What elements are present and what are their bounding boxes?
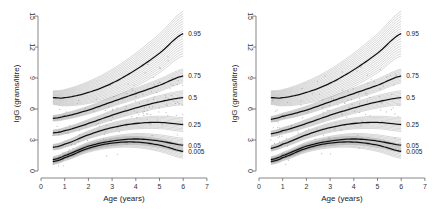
x-tick-label: 2 (86, 183, 90, 190)
x-axis-title: Age (years) (321, 194, 363, 203)
quantile-label: 0.5 (406, 94, 415, 101)
figure: 0369121501234567Age (years)IgG (grams/li… (0, 0, 443, 213)
quantile-label: 0.005 (188, 148, 205, 155)
y-tick-label: 3 (29, 138, 36, 142)
quantile-labels: 0.950.750.50.250.050.005 (188, 30, 205, 155)
y-axis-title: IgG (grams/litre) (12, 64, 21, 122)
x-tick-label: 1 (281, 183, 285, 190)
y-tick-label: 0 (247, 169, 254, 173)
quantile-label: 0.95 (188, 30, 201, 37)
x-tick-label: 7 (205, 183, 209, 190)
y-tick-label: 9 (29, 76, 36, 80)
y-tick-label: 6 (29, 107, 36, 111)
y-tick-label: 15 (247, 12, 254, 20)
x-tick-label: 6 (181, 183, 185, 190)
x-tick-label: 6 (399, 183, 403, 190)
quantile-label: 0.75 (406, 72, 419, 79)
quantile-curves-figure: 0369121501234567Age (years)IgG (grams/li… (0, 0, 443, 213)
x-tick-label: 4 (352, 183, 356, 190)
y-tick-label: 12 (29, 43, 36, 51)
x-tick-label: 0 (257, 183, 261, 190)
y-axis: 03691215 (29, 12, 38, 173)
y-tick-label: 0 (29, 169, 36, 173)
quantile-label: 0.005 (406, 148, 423, 155)
x-axis-title: Age (years) (103, 194, 145, 203)
x-tick-label: 1 (63, 183, 67, 190)
x-tick-label: 0 (39, 183, 43, 190)
quantile-curves (271, 11, 401, 164)
y-tick-label: 9 (247, 76, 254, 80)
quantile-labels: 0.950.750.50.250.050.005 (406, 30, 423, 155)
quantile-label: 0.25 (406, 121, 419, 128)
y-tick-label: 15 (29, 12, 36, 20)
left-panel: 0369121501234567Age (years)IgG (grams/li… (12, 11, 209, 203)
x-tick-label: 3 (110, 183, 114, 190)
quantile-label: 0.25 (188, 121, 201, 128)
quantile-label: 0.75 (188, 72, 201, 79)
x-tick-label: 2 (304, 183, 308, 190)
y-tick-label: 12 (247, 43, 254, 51)
right-panel: 0369121501234567Age (years)IgG (grams/li… (230, 11, 427, 203)
quantile-label: 0.95 (406, 30, 419, 37)
quantile-curves (53, 11, 183, 164)
y-tick-label: 6 (247, 107, 254, 111)
x-axis: 01234567 (39, 178, 209, 190)
y-tick-label: 3 (247, 138, 254, 142)
x-tick-label: 7 (423, 183, 427, 190)
x-tick-label: 5 (158, 183, 162, 190)
y-axis-title: IgG (grams/litre) (230, 64, 239, 122)
y-axis: 03691215 (247, 12, 256, 173)
x-axis: 01234567 (257, 178, 427, 190)
x-tick-label: 4 (134, 183, 138, 190)
quantile-label: 0.5 (188, 94, 197, 101)
x-tick-label: 5 (376, 183, 380, 190)
x-tick-label: 3 (328, 183, 332, 190)
